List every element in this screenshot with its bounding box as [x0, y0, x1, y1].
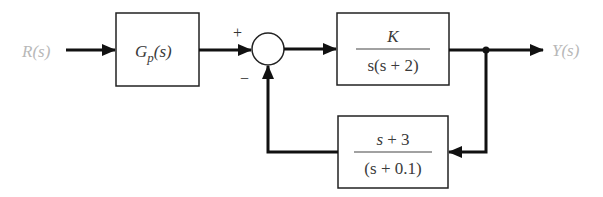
plant-denominator: s(s + 2) [367, 56, 418, 75]
input-signal-label: R(s) [21, 42, 51, 61]
plus-sign: + [233, 24, 242, 41]
feedback-denominator: (s + 0.1) [364, 159, 421, 178]
feedback-path-out [268, 66, 338, 152]
summing-junction [252, 33, 284, 65]
plant-block: K s(s + 2) [337, 13, 449, 85]
output-signal-label: Y(s) [552, 41, 580, 60]
block-diagram: R(s) Gp(s) + − K s(s + 2) Y(s) s + 3 (s … [0, 0, 603, 197]
plant-numerator: K [386, 27, 400, 46]
feedback-path-in [449, 50, 486, 152]
minus-sign: − [240, 70, 249, 87]
feedback-numerator: s + 3 [376, 130, 409, 149]
feedback-block: s + 3 (s + 0.1) [338, 116, 448, 188]
prefilter-block: Gp(s) [116, 13, 199, 86]
